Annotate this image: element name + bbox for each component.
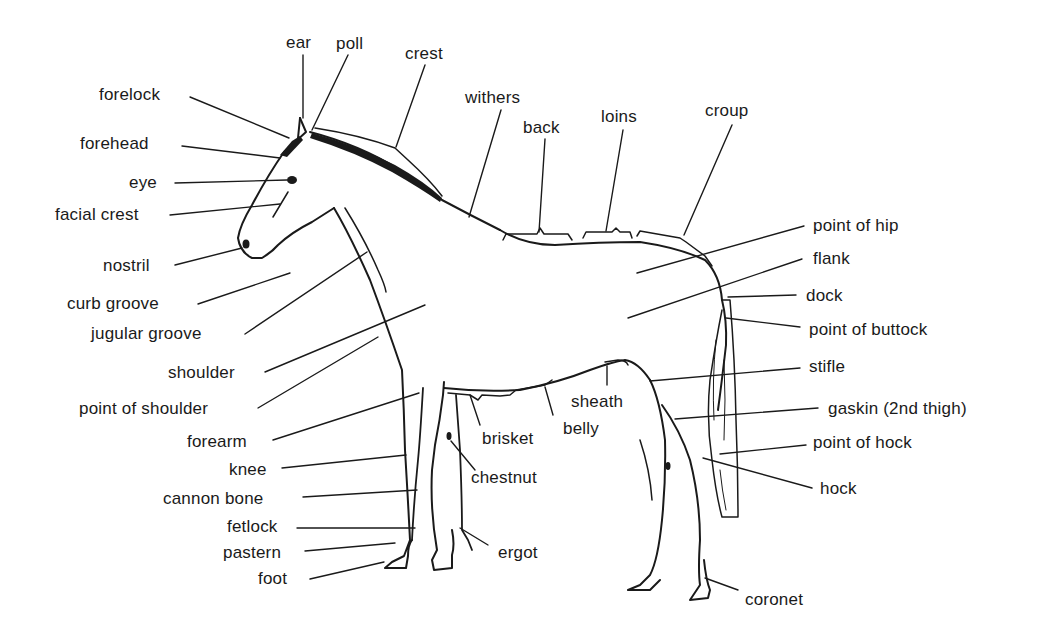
label-forearm: forearm: [187, 432, 247, 452]
label-eye: eye: [129, 173, 157, 193]
label-coronet: coronet: [745, 590, 803, 610]
label-back: back: [523, 118, 560, 138]
horse-anatomy-diagram: ear poll crest forelock withers back loi…: [0, 0, 1050, 639]
chestnut-fill: [447, 432, 452, 440]
label-point-of-hip: point of hip: [813, 216, 899, 236]
label-nostril: nostril: [103, 256, 150, 276]
label-knee: knee: [229, 460, 267, 480]
label-point-of-shoulder: point of shoulder: [79, 399, 208, 419]
label-belly: belly: [563, 419, 599, 439]
label-dock: dock: [806, 286, 843, 306]
filled-features: [243, 133, 671, 470]
label-facial-crest: facial crest: [55, 205, 139, 225]
label-crest: crest: [405, 44, 443, 64]
label-withers: withers: [465, 88, 520, 108]
label-hock: hock: [820, 479, 857, 499]
label-point-of-buttock: point of buttock: [809, 320, 928, 340]
label-stifle: stifle: [809, 357, 845, 377]
label-jugular-groove: jugular groove: [91, 324, 202, 344]
label-ear: ear: [286, 33, 311, 53]
label-flank: flank: [813, 249, 850, 269]
mane-fill: [310, 133, 442, 202]
label-brisket: brisket: [482, 429, 533, 449]
label-pastern: pastern: [223, 543, 281, 563]
nostril-fill: [243, 240, 250, 249]
label-point-of-hock: point of hock: [813, 433, 912, 453]
label-forelock: forelock: [99, 85, 160, 105]
label-ergot: ergot: [498, 543, 538, 563]
eye-fill: [287, 176, 297, 184]
label-curb-groove: curb groove: [67, 294, 159, 314]
label-cannon-bone: cannon bone: [163, 489, 264, 509]
label-chestnut: chestnut: [471, 468, 537, 488]
label-sheath: sheath: [571, 392, 623, 412]
label-croup: croup: [705, 101, 749, 121]
forelock-fill: [280, 136, 303, 157]
label-foot: foot: [258, 569, 287, 589]
label-shoulder: shoulder: [168, 363, 235, 383]
label-forehead: forehead: [80, 134, 149, 154]
hind-chestnut-fill: [666, 462, 671, 470]
label-poll: poll: [336, 34, 363, 54]
label-gaskin: gaskin (2nd thigh): [828, 399, 967, 419]
label-fetlock: fetlock: [227, 517, 278, 537]
label-loins: loins: [601, 107, 637, 127]
